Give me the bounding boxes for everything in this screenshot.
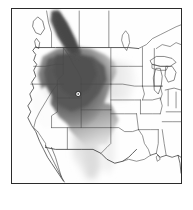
source-marker[interactable] [76,91,81,96]
screenshot-root: Grayscale plume / dispersion footprint o… [0,0,193,210]
map-frame [11,8,182,184]
map-canvas [12,9,181,183]
